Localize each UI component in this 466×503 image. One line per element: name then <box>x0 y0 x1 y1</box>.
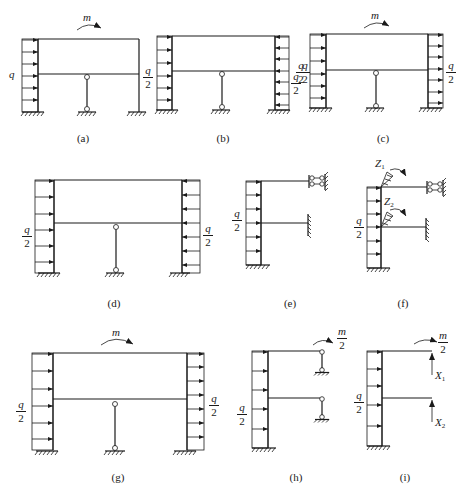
moment-arrow-icon <box>101 339 133 345</box>
load-label-q-over-2-right: q2 <box>209 393 219 418</box>
hinge-top <box>85 75 90 80</box>
panel-f <box>367 169 446 272</box>
fixed-wall-icon <box>426 218 429 242</box>
caption-e: (e) <box>284 298 296 309</box>
fixed-support-icon <box>267 110 290 114</box>
moment-label-m-over-2: m2 <box>438 330 448 355</box>
caption-a: (a) <box>77 133 89 144</box>
force-label-x2: X2 <box>435 417 445 430</box>
load-arrows <box>22 40 38 100</box>
load-label-q-over-2-left: q2 <box>16 399 26 424</box>
load-label-q-over-2-right: q2 <box>203 223 213 248</box>
hinge-bottom <box>85 107 90 112</box>
guided-support-icon <box>309 172 328 191</box>
caption-f: (f) <box>398 298 409 309</box>
moment-arrow-icon <box>414 340 437 344</box>
moment-arrow-icon <box>364 23 389 28</box>
load-label-q-over-2: q2 <box>232 208 242 233</box>
moment-arrow-icon <box>77 25 101 30</box>
panel-g <box>32 339 204 455</box>
diagram-canvas <box>0 0 466 503</box>
panel-a <box>21 25 146 116</box>
distributed-load-q <box>22 39 38 112</box>
load-label-q-over-2: q2 <box>143 65 153 90</box>
panel-c <box>309 23 443 112</box>
load-label-q-over-2-right: q2 <box>446 60 456 85</box>
panel-i <box>367 340 437 450</box>
caption-b: (b) <box>217 133 230 144</box>
moment-label-m-over-2: m2 <box>337 326 347 351</box>
guided-support-icon <box>427 178 446 197</box>
rotation-arrow-icon <box>390 169 406 176</box>
moment-arrow-icon <box>313 340 333 345</box>
caption-g: (g) <box>112 472 125 483</box>
force-label-x1: X1 <box>435 370 445 383</box>
panel-d <box>35 180 200 277</box>
fixed-support-icon <box>155 110 178 114</box>
rotation-restraint-icon <box>381 212 393 227</box>
rotation-label-z2: Z2 <box>384 196 394 209</box>
pin-support-icon <box>77 112 96 116</box>
panel-b <box>155 36 290 114</box>
panel-e <box>246 172 328 269</box>
rotation-label-z1: Z1 <box>375 158 385 171</box>
distributed-load-left <box>157 36 172 110</box>
caption-d: (d) <box>108 298 121 309</box>
load-label-q-over-2: q2 <box>237 402 247 427</box>
fixed-wall-icon <box>308 214 311 238</box>
panel-h <box>252 340 333 452</box>
rotation-arrow-icon <box>390 209 406 216</box>
pin-support-icon <box>211 110 230 114</box>
load-label-q: q <box>9 69 15 80</box>
caption-c: (c) <box>377 133 389 144</box>
caption-i: (i) <box>400 472 410 483</box>
load-label-q-over-2-left: q2 <box>22 224 32 249</box>
load-label-q-over-2: q2 <box>354 215 364 240</box>
load-label-q-over-2: q2 <box>354 390 364 415</box>
moment-label-m: m <box>112 327 120 338</box>
distributed-load-right <box>275 36 289 110</box>
moment-label-m: m <box>371 10 379 21</box>
moment-label-m: m <box>83 12 91 23</box>
caption-h: (h) <box>290 472 303 483</box>
load-label-q-over-2-left: q2 <box>296 60 306 85</box>
rotation-restraint-icon <box>381 172 393 187</box>
fixed-support-icon <box>127 112 146 116</box>
fixed-support-icon <box>21 112 44 116</box>
